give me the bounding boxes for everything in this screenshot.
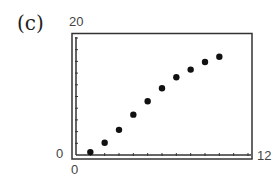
data-point [87, 149, 93, 155]
data-point [101, 140, 107, 146]
axes [75, 37, 251, 156]
data-point [187, 66, 193, 72]
data-point [116, 127, 122, 133]
viewing-window-frame [72, 34, 252, 160]
data-points [87, 54, 222, 156]
data-point [144, 98, 150, 104]
data-point [159, 85, 165, 91]
data-point [130, 111, 136, 117]
data-point [173, 74, 179, 80]
data-point [202, 59, 208, 65]
plot-area [0, 0, 278, 183]
data-point [216, 54, 222, 60]
scatter-chart: (c) 20 0 0 12 [0, 0, 278, 183]
